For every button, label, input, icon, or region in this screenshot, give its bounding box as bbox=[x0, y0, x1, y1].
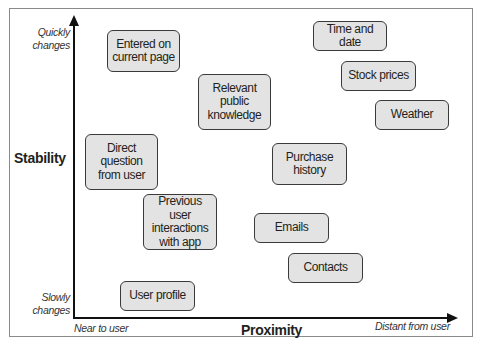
x-axis-right-label: Distant from user bbox=[375, 320, 450, 333]
node-user-profile: User profile bbox=[120, 281, 195, 311]
y-axis-line bbox=[73, 24, 75, 319]
node-purchase-history: Purchase history bbox=[272, 143, 347, 185]
x-axis-title: Proximity bbox=[241, 322, 302, 338]
node-relevant-public-knowledge: Relevant public knowledge bbox=[198, 74, 271, 130]
y-axis-bottom-label: Slowly changes bbox=[20, 291, 70, 317]
x-axis-left-label: Near to user bbox=[74, 322, 128, 335]
y-axis-title: Stability bbox=[14, 150, 66, 166]
node-contacts: Contacts bbox=[288, 253, 363, 283]
arrow-up-icon bbox=[69, 15, 79, 26]
node-weather: Weather bbox=[375, 100, 449, 130]
node-stock-prices: Stock prices bbox=[341, 61, 416, 91]
node-entered-on-current-page: Entered on current page bbox=[107, 30, 180, 72]
node-previous-user-interactions: Previous user interactions with app bbox=[143, 194, 217, 250]
x-axis-line bbox=[73, 317, 450, 319]
y-axis-top-label: Quickly changes bbox=[20, 26, 70, 52]
diagram-frame bbox=[9, 8, 473, 337]
node-direct-question-from-user: Direct question from user bbox=[85, 134, 158, 190]
node-emails: Emails bbox=[254, 213, 329, 243]
node-time-and-date: Time and date bbox=[313, 21, 387, 51]
